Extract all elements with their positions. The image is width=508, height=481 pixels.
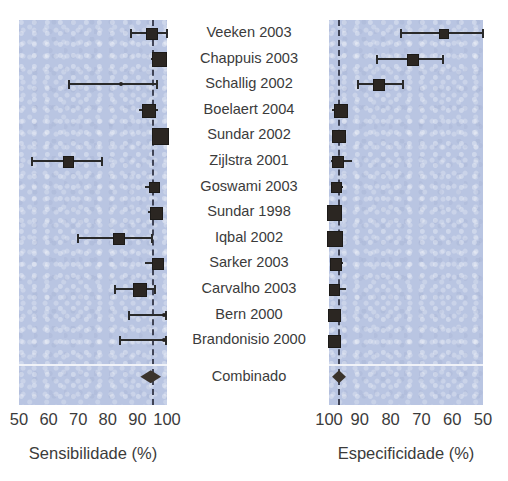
ci-cap-upper [156,80,158,89]
ci-cap-lower [68,80,70,89]
ci-cap-lower [128,311,130,320]
point-estimate-marker [407,54,419,66]
sensitivity-axis-title: Sensibilidade (%) [19,444,167,463]
study-label: Brandonisio 2000 [168,332,330,347]
study-label: Chappuis 2003 [168,51,330,66]
summary-diamond [332,370,346,383]
point-estimate-marker [329,284,340,295]
axis-tick-label: 80 [99,410,117,429]
specificity-axis-title: Especificidade (%) [329,444,483,463]
ci-cap-lower [114,285,116,294]
ci-cap-lower [31,157,33,166]
specificity-summary-separator [329,364,483,366]
study-label: Goswami 2003 [168,179,330,194]
ci-cap-lower [119,336,121,345]
point-estimate-marker [152,52,167,67]
study-label: Zijlstra 2001 [168,153,330,168]
study-label: Boelaert 2004 [168,102,330,117]
axis-tick-label: 90 [128,410,146,429]
point-estimate-marker [331,182,342,193]
axis-tick-label: 100 [315,410,343,429]
point-estimate-marker [439,29,449,39]
axis-tick-label: 70 [69,410,87,429]
axis-tick-label: 100 [153,410,181,429]
axis-tick-label: 50 [10,410,28,429]
axis-tick-label: 90 [351,410,369,429]
sensitivity-summary-separator [19,364,167,366]
point-estimate-marker [149,182,160,193]
point-estimate-marker [332,130,346,144]
point-estimate-marker [119,82,123,86]
point-estimate-marker [146,28,158,40]
study-label: Iqbal 2002 [168,230,330,245]
study-label: Bern 2000 [168,307,330,322]
ci-cap-lower [442,55,444,64]
ci-cap-lower [402,80,404,89]
ci-cap-upper [400,29,402,38]
specificity-axis-ticks: 1009080706050 [329,410,483,432]
ci-cap-upper [101,157,103,166]
study-label: Sundar 2002 [168,127,330,142]
study-label: Sarker 2003 [168,255,330,270]
point-estimate-marker [150,207,163,220]
point-estimate-marker [152,258,164,270]
confidence-interval-line [69,83,156,85]
point-estimate-marker [373,79,385,91]
study-label: Carvalho 2003 [168,281,330,296]
study-label: Sundar 1998 [168,204,330,219]
point-estimate-marker [142,104,156,118]
ci-cap-upper [376,55,378,64]
axis-tick-label: 50 [474,410,492,429]
point-estimate-marker [152,128,169,145]
point-estimate-marker [63,156,74,167]
ci-cap-upper [151,234,153,243]
summary-diamond [140,370,161,383]
point-estimate-marker [334,104,348,118]
ci-cap-lower [77,234,79,243]
point-estimate-marker [162,313,166,317]
axis-tick-label: 60 [443,410,461,429]
forest-plot-figure: Veeken 2003Chappuis 2003Schallig 2002Boe… [0,0,508,481]
point-estimate-marker [113,233,125,245]
study-label: Veeken 2003 [168,25,330,40]
point-estimate-marker [328,309,341,322]
axis-tick-label: 70 [412,410,430,429]
ci-cap-upper [357,80,359,89]
confidence-interval-line [120,339,166,341]
confidence-interval-line [129,314,166,316]
point-estimate-marker [332,156,344,168]
specificity-plot-panel [329,20,483,405]
summary-label: Combinado [168,369,330,384]
sensitivity-plot-panel [19,20,167,405]
axis-tick-label: 80 [381,410,399,429]
axis-tick-label: 60 [39,410,57,429]
point-estimate-marker [133,283,147,297]
point-estimate-marker [330,258,342,270]
point-estimate-marker [328,335,341,348]
ci-cap-lower [482,29,484,38]
ci-cap-upper [154,285,156,294]
study-label: Schallig 2002 [168,76,330,91]
ci-cap-lower [130,29,132,38]
sensitivity-axis-ticks: 5060708090100 [19,410,167,432]
